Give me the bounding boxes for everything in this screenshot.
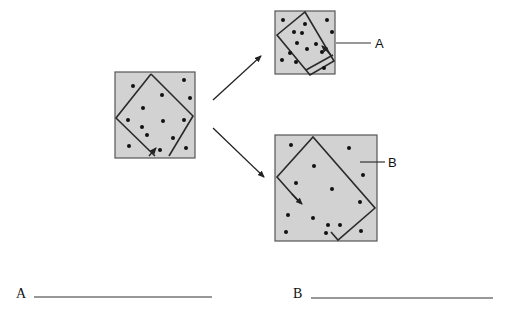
solute-dot (325, 18, 329, 22)
solute-dot (358, 200, 362, 204)
original-cell-panel (115, 72, 195, 158)
solute-dot (182, 78, 186, 82)
solute-dot (188, 96, 192, 100)
solute-dot (284, 230, 288, 234)
original-medium-square (115, 72, 195, 158)
solute-dot (326, 223, 330, 227)
solute-dot (171, 136, 175, 140)
solute-dot (305, 47, 309, 51)
solute-dot (324, 231, 328, 235)
solute-dot (141, 106, 145, 110)
solute-dot (158, 148, 162, 152)
solute-dot (286, 213, 290, 217)
solute-dot (161, 119, 165, 123)
solute-dot (140, 125, 144, 129)
answer-a[interactable]: A (16, 286, 212, 301)
solute-dot (281, 18, 285, 22)
swollen-cell-panel: B (275, 135, 397, 241)
label-b: B (388, 155, 397, 170)
solute-dot (330, 187, 334, 191)
solute-dot (361, 173, 365, 177)
solute-dot (126, 118, 130, 122)
solute-dot (303, 22, 307, 26)
solute-dot (127, 144, 131, 148)
solute-dot (300, 31, 304, 35)
solute-dot (294, 60, 298, 64)
solute-dot (311, 216, 315, 220)
answer-a-label: A (16, 286, 27, 301)
solute-dot (338, 223, 342, 227)
cell-diagram: A B A B (0, 0, 523, 313)
solute-dot (280, 58, 284, 62)
shrunk-cell-panel: A (275, 11, 384, 75)
solute-dot (292, 30, 296, 34)
solute-dot (294, 181, 298, 185)
solute-dot (145, 133, 149, 137)
label-a: A (375, 36, 384, 51)
solute-dot (314, 42, 318, 46)
solute-dot (289, 143, 293, 147)
solute-dot (295, 41, 299, 45)
solute-dot (359, 229, 363, 233)
arrow-to-swollen-icon (213, 128, 264, 177)
answer-b-label: B (293, 286, 302, 301)
answer-b[interactable]: B (293, 286, 493, 301)
solute-dot (182, 118, 186, 122)
solute-dot (184, 146, 188, 150)
arrow-to-shrunk-icon (213, 56, 261, 100)
solute-dot (320, 50, 324, 54)
solute-dot (131, 84, 135, 88)
solute-dot (160, 93, 164, 97)
solute-dot (330, 30, 334, 34)
solute-dot (288, 51, 292, 55)
solute-dot (322, 66, 326, 70)
solute-dot (312, 164, 316, 168)
solute-dot (347, 146, 351, 150)
